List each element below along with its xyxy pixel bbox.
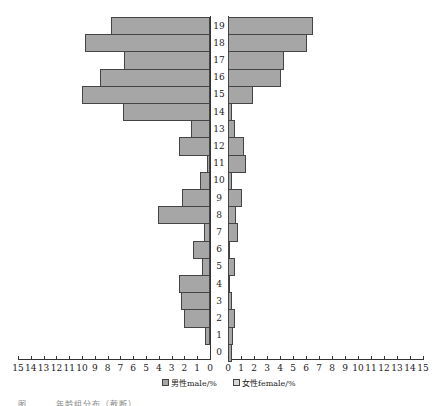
female-bar <box>228 137 244 155</box>
male-bar <box>200 172 210 190</box>
age-label: 15 <box>210 89 228 99</box>
x-tick-label: 15 <box>415 363 431 373</box>
population-pyramid-chart: 0123456789101112131415161718191514131211… <box>0 0 438 406</box>
x-tick <box>82 356 83 359</box>
age-label: 14 <box>210 107 228 117</box>
female-x-axis <box>228 359 424 360</box>
x-tick <box>319 356 320 359</box>
female-bar <box>228 34 307 52</box>
male-bar <box>158 206 210 224</box>
male-bar <box>193 241 210 259</box>
x-tick <box>280 356 281 359</box>
female-bar <box>228 258 235 276</box>
male-bar <box>85 34 210 52</box>
age-label: 12 <box>210 141 228 151</box>
x-tick <box>31 356 32 359</box>
male-bar <box>100 69 210 87</box>
female-bar <box>228 17 313 35</box>
male-x-axis <box>18 359 211 360</box>
age-label: 8 <box>210 210 228 220</box>
age-label: 17 <box>210 55 228 65</box>
age-label: 18 <box>210 38 228 48</box>
age-label: 19 <box>210 21 228 31</box>
age-label: 6 <box>210 244 228 254</box>
x-tick <box>120 356 121 359</box>
female-bar <box>228 223 238 241</box>
male-bar <box>205 327 210 345</box>
legend-male-label: 男性male/% <box>171 377 217 388</box>
x-tick <box>371 356 372 359</box>
x-tick <box>133 356 134 359</box>
male-swatch <box>162 379 169 386</box>
male-bar <box>179 137 210 155</box>
x-tick <box>184 356 185 359</box>
male-bar <box>204 223 210 241</box>
x-tick <box>210 356 211 359</box>
x-tick <box>345 356 346 359</box>
x-tick <box>159 356 160 359</box>
female-bar <box>228 309 235 327</box>
x-tick <box>56 356 57 359</box>
female-swatch <box>233 379 240 386</box>
male-bar <box>111 17 210 35</box>
age-label: 10 <box>210 175 228 185</box>
male-bar <box>124 51 210 69</box>
x-tick <box>423 356 424 359</box>
x-tick <box>172 356 173 359</box>
figure-caption: 图 … … 年龄组分布（截断） <box>18 398 428 406</box>
age-label: 0 <box>210 347 228 357</box>
female-bar <box>228 155 246 173</box>
age-label: 4 <box>210 279 228 289</box>
x-tick <box>95 356 96 359</box>
age-label: 11 <box>210 158 228 168</box>
male-bar <box>191 120 210 138</box>
female-bar <box>228 344 232 362</box>
x-tick <box>397 356 398 359</box>
x-tick <box>267 356 268 359</box>
x-tick <box>384 356 385 359</box>
male-bar <box>202 258 210 276</box>
age-label: 3 <box>210 296 228 306</box>
age-label: 5 <box>210 261 228 271</box>
age-label: 7 <box>210 227 228 237</box>
female-bar <box>228 103 232 121</box>
male-bar <box>179 275 210 293</box>
female-bar <box>228 86 253 104</box>
age-label: 2 <box>210 313 228 323</box>
female-bar <box>228 189 242 207</box>
x-tick <box>69 356 70 359</box>
x-tick <box>306 356 307 359</box>
x-tick <box>241 356 242 359</box>
legend-female: 女性female/% <box>233 377 296 388</box>
age-label: 16 <box>210 72 228 82</box>
x-tick <box>228 356 229 359</box>
female-bar <box>228 292 232 310</box>
x-tick <box>410 356 411 359</box>
x-tick-label: 0 <box>202 363 218 373</box>
x-tick <box>293 356 294 359</box>
male-bar <box>184 309 210 327</box>
age-label: 9 <box>210 193 228 203</box>
male-bar <box>207 155 210 173</box>
age-label: 1 <box>210 330 228 340</box>
x-tick <box>146 356 147 359</box>
x-tick <box>358 356 359 359</box>
x-tick <box>18 356 19 359</box>
male-bar <box>181 292 210 310</box>
x-tick <box>197 356 198 359</box>
female-bar <box>228 69 281 87</box>
female-bar <box>228 51 284 69</box>
female-bar <box>228 275 230 293</box>
legend-female-label: 女性female/% <box>242 377 296 388</box>
female-bar <box>228 327 233 345</box>
legend-male: 男性male/% <box>162 377 217 388</box>
male-bar <box>182 189 210 207</box>
female-bar <box>228 172 232 190</box>
female-bar <box>228 241 230 259</box>
female-bar <box>228 206 236 224</box>
x-tick <box>254 356 255 359</box>
x-tick <box>332 356 333 359</box>
x-tick <box>108 356 109 359</box>
male-axis-line <box>210 16 211 360</box>
male-bar <box>82 86 210 104</box>
